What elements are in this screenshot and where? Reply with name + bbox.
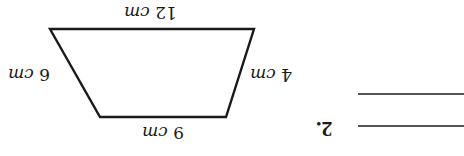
side-label-left: 6 cm	[8, 66, 50, 83]
answer-line-2[interactable]	[358, 125, 464, 127]
side-unit-top: cm	[124, 3, 150, 23]
side-label-right: 4 cm	[250, 66, 292, 83]
side-value-left: 6	[39, 65, 50, 85]
side-unit-bottom: cm	[142, 123, 168, 143]
side-value-right: 4	[281, 65, 292, 85]
side-value-bottom: 9	[173, 123, 184, 143]
worksheet-page: 12 cm 6 cm 4 cm 9 cm 2.	[0, 0, 464, 156]
answer-line-1[interactable]	[358, 93, 464, 95]
side-label-bottom: 9 cm	[142, 124, 184, 141]
question-number: 2.	[316, 118, 333, 140]
trapezoid-shape	[50, 29, 254, 117]
side-label-top: 12 cm	[124, 4, 177, 21]
side-unit-right: cm	[250, 65, 276, 85]
side-value-top: 12	[155, 3, 177, 23]
trapezoid-figure	[0, 0, 464, 156]
side-unit-left: cm	[8, 65, 34, 85]
